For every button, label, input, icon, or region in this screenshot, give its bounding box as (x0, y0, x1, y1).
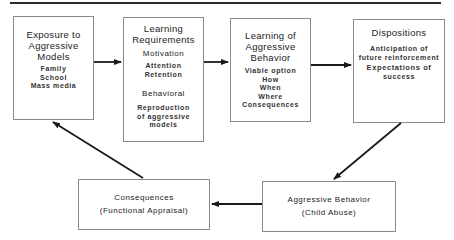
arrow-consequences-to-exposure (53, 122, 143, 178)
arrow-dispositions-to-aggressive (334, 123, 401, 179)
arrows-layer (0, 0, 454, 240)
